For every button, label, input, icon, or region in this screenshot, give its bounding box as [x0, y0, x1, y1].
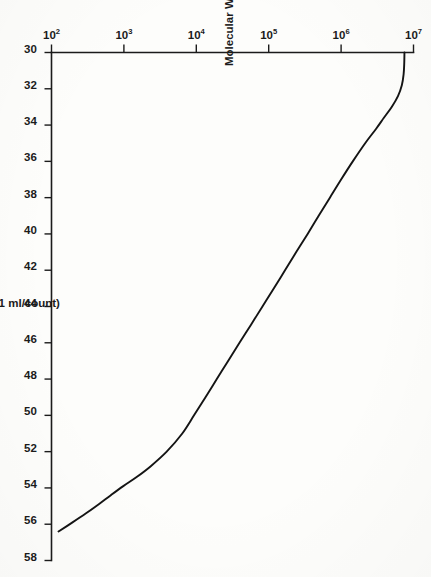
svg-text:105: 105 — [260, 26, 278, 40]
count-tick-label: 30 — [24, 42, 37, 54]
count-tick-label: 56 — [24, 514, 37, 526]
svg-text:106: 106 — [332, 26, 349, 40]
caption-fragment: Figure 3. Calibration curve — [414, 507, 430, 573]
count-tick-label: 50 — [24, 405, 37, 417]
scanned-page: 303234363840424446485052545658 102103104… — [0, 0, 431, 577]
count-tick-label: 52 — [24, 441, 37, 453]
svg-text:103: 103 — [115, 26, 132, 40]
svg-text:102: 102 — [42, 26, 59, 40]
plot-area: 303234363840424446485052545658 102103104… — [0, 0, 431, 577]
rotated-figure-wrapper: 303234363840424446485052545658 102103104… — [0, 0, 431, 577]
count-tick-label: 46 — [24, 332, 37, 344]
calibration-chart: 303234363840424446485052545658 102103104… — [0, 0, 431, 577]
molecular-weight-tick-label: 102 — [42, 26, 59, 40]
series-group — [58, 52, 404, 531]
count-tick-label: 48 — [24, 369, 37, 381]
calibration-curve-line — [58, 52, 404, 531]
molecular-weight-tick-label: 105 — [260, 26, 278, 40]
molecular-weight-tick-label: 106 — [332, 26, 349, 40]
molecular-weight-tick-label: 104 — [187, 26, 205, 40]
count-axis-title: Count (0.11 ml/count) — [0, 296, 60, 308]
count-tick-label: 54 — [24, 477, 37, 489]
molecular-weight-tick-label: 103 — [115, 26, 132, 40]
count-tick-label: 58 — [24, 550, 37, 562]
svg-text:104: 104 — [187, 26, 205, 40]
count-tick-label: 38 — [24, 187, 37, 199]
count-tick-label: 36 — [24, 151, 37, 163]
count-tick-label: 40 — [24, 223, 37, 235]
svg-text:107: 107 — [404, 26, 421, 40]
axis-frame — [51, 52, 413, 560]
count-tick-label: 32 — [24, 78, 37, 90]
count-tick-label: 42 — [24, 260, 37, 272]
molecular-weight-tick-label: 107 — [404, 26, 421, 40]
molecular-weight-axis-title: Molecular Weight — [222, 0, 234, 66]
count-tick-label: 34 — [24, 115, 37, 127]
